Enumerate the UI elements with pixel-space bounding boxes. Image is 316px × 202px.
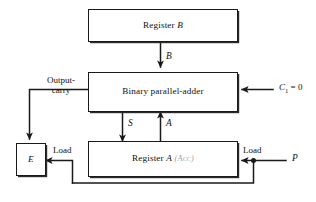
- label-carry-in: C1 = 0: [279, 83, 302, 94]
- block-register-a[interactable]: Register A(Acc): [88, 141, 238, 177]
- label-signal-a: A: [166, 119, 172, 129]
- label-p-input: P: [292, 154, 298, 164]
- adder-label: Binary parallel-adder: [122, 87, 203, 96]
- output-carry-line-1: Output-: [47, 75, 75, 85]
- block-register-b[interactable]: Register B: [88, 9, 238, 42]
- label-output-carry: Output-carry: [33, 76, 89, 95]
- wire-load-e: [46, 161, 73, 184]
- label-load-a: Load: [243, 146, 262, 156]
- block-binary-parallel-adder[interactable]: Binary parallel-adder: [88, 72, 238, 112]
- junction-dot-load: [251, 158, 256, 163]
- output-carry-line-2: carry: [52, 85, 70, 95]
- e-label: E: [28, 155, 34, 164]
- register-a-label: Register A(Acc): [132, 154, 194, 163]
- register-a-annotation: (Acc): [175, 154, 194, 163]
- register-a-symbol: A: [166, 153, 172, 163]
- register-b-symbol: B: [177, 20, 183, 30]
- label-signal-b: B: [166, 52, 172, 62]
- label-load-e: Load: [53, 146, 72, 156]
- wire-output-carry: [30, 90, 89, 140]
- label-signal-s: S: [128, 119, 133, 129]
- block-diagram: Register B Binary parallel-adder Registe…: [0, 0, 316, 202]
- block-e-flip-flop[interactable]: E: [16, 143, 46, 176]
- carry-in-value: = 0: [291, 82, 303, 92]
- register-b-label: Register B: [143, 21, 183, 30]
